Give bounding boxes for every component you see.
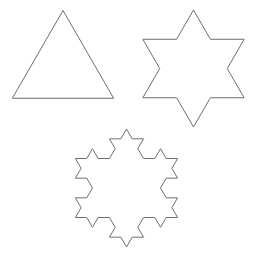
star-level-1	[143, 10, 244, 127]
snowflake-level-2	[75, 129, 177, 247]
koch-snowflake-diagram	[0, 0, 254, 256]
triangle-level-0	[12, 11, 113, 99]
